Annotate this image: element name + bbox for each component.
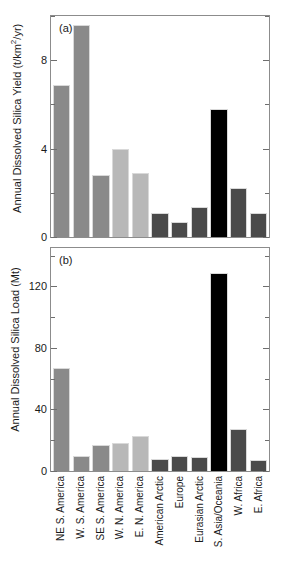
panel-a-y-axis-title: Annual Dissolved Silica Yield (t/km2/yr) <box>10 7 23 230</box>
bar-slot <box>170 248 190 471</box>
bar-slot <box>248 16 268 237</box>
bar-slot <box>229 248 249 471</box>
bar <box>151 213 168 237</box>
y-tick-minor <box>265 16 269 17</box>
x-label-slot: W. S. America <box>71 472 91 564</box>
x-tick-label: E. Africa <box>254 476 264 513</box>
y-tick-major <box>51 149 57 150</box>
bar-slot <box>189 16 209 237</box>
y-tick-minor <box>265 256 269 257</box>
bar <box>230 429 247 471</box>
bar <box>92 445 109 471</box>
y-tick-major <box>51 237 57 238</box>
x-tick-label: E. N. America <box>135 476 145 537</box>
panel-a-bars <box>51 16 269 237</box>
bar <box>132 173 149 237</box>
panel-b-bars <box>51 248 269 471</box>
bar-slot <box>52 16 72 237</box>
x-label-slot: W. N. America <box>110 472 130 564</box>
bar-slot <box>209 16 229 237</box>
y-tick-minor <box>265 379 269 380</box>
bar <box>230 188 247 237</box>
y-tick-minor <box>51 16 55 17</box>
bar <box>53 85 70 237</box>
bar-slot <box>229 16 249 237</box>
bar-slot <box>189 248 209 471</box>
panel-a-label: (a) <box>59 23 72 34</box>
y-tick-major <box>51 60 57 61</box>
bar-slot <box>52 248 72 471</box>
bar-slot <box>91 248 111 471</box>
x-label-slot: W. Africa <box>229 472 249 564</box>
bar-slot <box>131 16 151 237</box>
bar <box>250 213 267 237</box>
bar <box>171 222 188 237</box>
y-tick-minor <box>51 379 55 380</box>
panel-b: (b) 04080120 <box>50 247 270 472</box>
bar <box>250 460 267 471</box>
panel-b-y-axis-title: Annual Dissolved Silica Load (Mt) <box>10 237 21 462</box>
y-tick-label: 40 <box>35 404 47 415</box>
x-tick-label: NE S. America <box>56 476 66 541</box>
y-tick-minor <box>265 440 269 441</box>
x-tick-label: Europe <box>175 476 185 508</box>
x-tick-label: SE S. America <box>96 476 106 540</box>
bar <box>151 459 168 471</box>
x-label-slot: American Arctic <box>150 472 170 564</box>
bar-slot <box>91 16 111 237</box>
panel-a: (a) 048 <box>50 15 270 238</box>
y-tick-label: 0 <box>41 466 47 477</box>
bar-slot <box>150 248 170 471</box>
bar-slot <box>111 248 131 471</box>
bar-slot <box>72 16 92 237</box>
x-label-slot: SE S. America <box>91 472 111 564</box>
y-tick-minor <box>265 193 269 194</box>
y-tick-minor <box>51 317 55 318</box>
figure-container: Annual Dissolved Silica Yield (t/km2/yr)… <box>0 0 283 565</box>
x-tick-label: W. S. America <box>76 476 86 539</box>
y-tick-minor <box>265 104 269 105</box>
x-label-slot: Europe <box>170 472 190 564</box>
panel-b-label: (b) <box>59 255 72 266</box>
y-tick-minor <box>51 193 55 194</box>
bar <box>92 175 109 237</box>
y-tick-label: 0 <box>41 232 47 243</box>
x-label-slot: S. Asia/Oceania <box>210 472 230 564</box>
x-label-slot: E. N. America <box>130 472 150 564</box>
bar <box>73 25 90 237</box>
y-tick-minor <box>51 440 55 441</box>
x-tick-label: W. Africa <box>234 476 244 515</box>
y-tick-major <box>51 409 57 410</box>
x-tick-label: American Arctic <box>155 476 165 545</box>
y-tick-minor <box>51 256 55 257</box>
y-tick-minor <box>51 104 55 105</box>
bar-slot <box>111 16 131 237</box>
x-label-slot: Eurasian Arctic <box>190 472 210 564</box>
y-tick-label: 120 <box>29 281 47 292</box>
bar <box>191 207 208 237</box>
x-tick-label: S. Asia/Oceania <box>214 476 224 547</box>
x-label-slot: E. Africa <box>249 472 269 564</box>
y-tick-minor <box>265 317 269 318</box>
bar-slot <box>170 16 190 237</box>
y-tick-major <box>263 348 269 349</box>
bar-slot <box>150 16 170 237</box>
x-tick-label: W. N. America <box>115 476 125 539</box>
bar <box>53 368 70 471</box>
y-tick-major <box>51 348 57 349</box>
bar-slot <box>248 248 268 471</box>
panel-b-plot-area <box>51 248 269 471</box>
y-tick-major <box>263 286 269 287</box>
bar <box>210 273 227 471</box>
x-axis-category-labels: NE S. AmericaW. S. AmericaSE S. AmericaW… <box>50 472 270 564</box>
y-tick-major <box>263 149 269 150</box>
y-tick-major <box>51 286 57 287</box>
panel-a-plot-area <box>51 16 269 237</box>
y-tick-label: 8 <box>41 55 47 66</box>
bar-slot <box>131 248 151 471</box>
bar <box>112 443 129 471</box>
y-tick-label: 80 <box>35 342 47 353</box>
bar <box>132 436 149 471</box>
bar <box>191 457 208 471</box>
bar <box>210 109 227 237</box>
